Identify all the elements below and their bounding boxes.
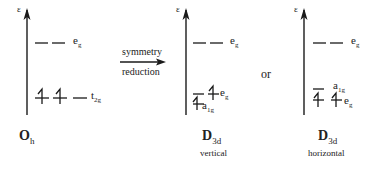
energy-axis-label: ε: [176, 4, 180, 14]
caption-vertical: vertical: [200, 148, 227, 158]
point-group-d3d-horizontal: D3d: [318, 128, 337, 146]
level-label-eg-lower: eg: [344, 94, 352, 109]
caption-horizontal: horizontal: [308, 148, 345, 158]
level-label-eg: eg: [73, 34, 81, 49]
arrow-label-symmetry: symmetry: [122, 46, 162, 57]
electron-up-icon: [38, 89, 42, 104]
level-eg-lower: [313, 93, 342, 107]
panel-oh: [24, 8, 88, 115]
or-connector: or: [261, 67, 271, 82]
level-t2g: [35, 89, 87, 104]
energy-axis-label: ε: [294, 4, 298, 14]
level-label-t2g: t2g: [91, 89, 101, 104]
arrow-label-reduction: reduction: [122, 66, 160, 77]
electron-up-icon: [209, 86, 213, 100]
symmetry-reduction-arrow: [120, 59, 166, 66]
level-label-a1g: a1g: [333, 79, 345, 94]
electron-up-icon: [56, 89, 60, 104]
point-group-oh: Oh: [19, 128, 34, 146]
panel-d3d-horizontal: [301, 8, 344, 115]
level-label-eg-upper: eg: [230, 34, 238, 49]
level-label-a1g: a1g: [202, 99, 214, 114]
level-label-eg-lower: eg: [220, 86, 228, 101]
point-group-d3d-vertical: D3d: [202, 128, 221, 146]
energy-axis-label: ε: [17, 4, 21, 14]
level-label-eg-upper: eg: [351, 34, 359, 49]
